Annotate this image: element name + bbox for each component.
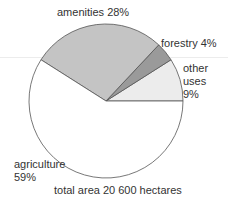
label-forestry: forestry 4% (161, 37, 217, 50)
label-other-line3: 9% (183, 88, 208, 101)
label-other-uses: other uses 9% (183, 62, 208, 101)
label-agri-line1: agriculture (14, 158, 65, 171)
label-agriculture: agriculture 59% (14, 158, 65, 184)
chart-caption: total area 20 600 hectares (54, 184, 182, 197)
label-other-line1: other (183, 62, 208, 75)
label-amenities: amenities 28% (57, 6, 129, 19)
label-agri-line2: 59% (14, 171, 65, 184)
label-other-line2: uses (183, 75, 208, 88)
